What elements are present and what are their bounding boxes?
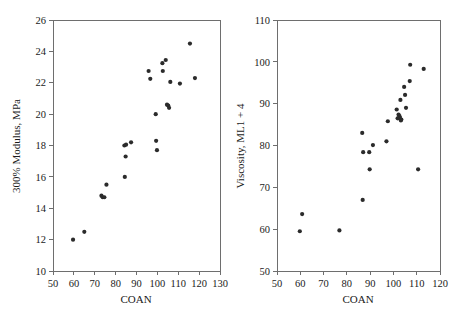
y-tick-label: 22 bbox=[36, 77, 47, 88]
x-axis-ticks-left bbox=[53, 271, 220, 275]
data-point bbox=[148, 77, 152, 81]
data-point bbox=[422, 67, 426, 71]
x-axis-tick-labels-right: 5060708090100110120 bbox=[272, 278, 448, 289]
x-tick-label: 90 bbox=[131, 278, 142, 289]
data-point bbox=[193, 76, 197, 80]
x-axis-ticks-right bbox=[277, 271, 440, 275]
data-point bbox=[168, 80, 172, 84]
y-axis-tick-labels-right: 5060708090100110 bbox=[254, 15, 270, 277]
x-tick-label: 50 bbox=[48, 278, 59, 289]
x-tick-label: 60 bbox=[295, 278, 306, 289]
y-axis-tick-labels-left: 101214161820222426 bbox=[36, 15, 47, 277]
x-tick-label: 120 bbox=[191, 278, 207, 289]
data-point bbox=[300, 212, 304, 216]
x-tick-label: 130 bbox=[212, 278, 228, 289]
data-point bbox=[298, 229, 302, 233]
y-tick-label: 100 bbox=[254, 57, 270, 68]
y-axis-title-right: Viscosity, ML1 + 4 bbox=[234, 103, 246, 188]
y-tick-label: 16 bbox=[36, 172, 47, 183]
data-point bbox=[361, 198, 365, 202]
data-point bbox=[361, 150, 365, 154]
data-point bbox=[403, 93, 407, 97]
data-point bbox=[178, 81, 182, 85]
scatter-plot-modulus: 5060708090100110120130 10121416182022242… bbox=[0, 0, 233, 323]
x-tick-label: 70 bbox=[90, 278, 101, 289]
data-point bbox=[367, 150, 371, 154]
data-point bbox=[155, 148, 159, 152]
data-point bbox=[164, 58, 168, 62]
data-point bbox=[368, 167, 372, 171]
data-point bbox=[408, 79, 412, 83]
data-point bbox=[104, 183, 108, 187]
data-point bbox=[161, 69, 165, 73]
data-point bbox=[102, 195, 106, 199]
data-point bbox=[154, 112, 158, 116]
y-tick-label: 12 bbox=[36, 234, 47, 245]
y-tick-label: 50 bbox=[260, 266, 271, 277]
data-point bbox=[154, 139, 158, 143]
data-points-right bbox=[298, 63, 426, 234]
scatter-plot-viscosity: 5060708090100110120 5060708090100110 COA… bbox=[232, 0, 465, 323]
chart-panel-left: 5060708090100110120130 10121416182022242… bbox=[0, 0, 233, 323]
data-point bbox=[167, 106, 171, 110]
y-tick-label: 60 bbox=[260, 224, 271, 235]
x-axis-tick-labels-left: 5060708090100110120130 bbox=[48, 278, 228, 289]
chart-panel-right: 5060708090100110120 5060708090100110 COA… bbox=[232, 0, 465, 323]
data-point bbox=[123, 175, 127, 179]
x-tick-label: 70 bbox=[318, 278, 329, 289]
data-point bbox=[395, 107, 399, 111]
x-tick-label: 50 bbox=[272, 278, 283, 289]
x-tick-label: 100 bbox=[150, 278, 166, 289]
x-tick-label: 120 bbox=[432, 278, 448, 289]
x-tick-label: 60 bbox=[69, 278, 80, 289]
y-tick-label: 110 bbox=[255, 15, 270, 26]
y-tick-label: 26 bbox=[36, 15, 47, 26]
data-point bbox=[337, 228, 341, 232]
data-point bbox=[386, 119, 390, 123]
data-point bbox=[371, 143, 375, 147]
x-tick-label: 110 bbox=[409, 278, 424, 289]
y-axis-title-left: 300% Modulus, MPa bbox=[10, 99, 22, 193]
data-point bbox=[360, 131, 364, 135]
x-tick-label: 90 bbox=[365, 278, 376, 289]
x-axis-title-left: COAN bbox=[120, 293, 151, 305]
y-axis-ticks-left bbox=[49, 20, 53, 271]
y-tick-label: 80 bbox=[260, 140, 271, 151]
data-point bbox=[124, 143, 128, 147]
x-tick-label: 80 bbox=[342, 278, 353, 289]
plot-frame-right bbox=[277, 20, 440, 271]
plot-frame-left bbox=[53, 20, 220, 271]
y-tick-label: 70 bbox=[260, 182, 271, 193]
data-point bbox=[408, 63, 412, 67]
data-point bbox=[399, 117, 403, 121]
x-axis-title-right: COAN bbox=[342, 293, 373, 305]
y-tick-label: 10 bbox=[36, 266, 47, 277]
y-tick-label: 14 bbox=[36, 203, 47, 214]
data-point bbox=[416, 167, 420, 171]
x-tick-label: 100 bbox=[386, 278, 402, 289]
data-point bbox=[402, 85, 406, 89]
data-point bbox=[398, 98, 402, 102]
data-point bbox=[124, 154, 128, 158]
y-tick-label: 20 bbox=[36, 109, 47, 120]
data-point bbox=[129, 140, 133, 144]
data-point bbox=[404, 106, 408, 110]
x-tick-label: 80 bbox=[110, 278, 121, 289]
figure-scatter-pair: 5060708090100110120130 10121416182022242… bbox=[0, 0, 465, 323]
x-tick-label: 110 bbox=[171, 278, 186, 289]
y-tick-label: 90 bbox=[260, 98, 271, 109]
y-tick-label: 18 bbox=[36, 140, 47, 151]
y-tick-label: 24 bbox=[36, 46, 47, 57]
data-point bbox=[384, 139, 388, 143]
data-point bbox=[147, 69, 151, 73]
data-point bbox=[160, 61, 164, 65]
data-points-left bbox=[71, 41, 197, 241]
data-point bbox=[188, 41, 192, 45]
data-point bbox=[82, 230, 86, 234]
y-axis-ticks-right bbox=[273, 20, 277, 271]
data-point bbox=[71, 238, 75, 242]
